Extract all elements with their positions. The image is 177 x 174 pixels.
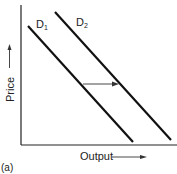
d1-label-main: D	[36, 18, 44, 30]
y-axis-label: Price	[5, 74, 16, 106]
d2-label: D2	[76, 17, 88, 29]
d2-label-main: D	[76, 16, 84, 28]
x-axis-label: Output	[80, 151, 113, 162]
demand-shift-diagram	[0, 0, 177, 174]
d2-label-sub: 2	[84, 22, 88, 29]
price-arrow-head-icon	[8, 44, 12, 50]
d1-label-sub: 1	[44, 24, 48, 31]
output-arrow-head-icon	[140, 155, 147, 159]
d1-label: D1	[36, 19, 48, 31]
panel-label: (a)	[1, 163, 13, 173]
